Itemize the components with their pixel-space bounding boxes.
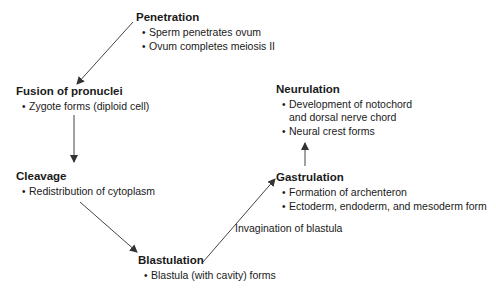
stage-bullet: Development of notochordand dorsal nerve… [282,98,412,124]
arrow-blastulation-to-gastrulation [203,179,275,262]
stage-title: Blastulation [138,253,276,267]
edge-label-invagination: Invagination of blastula [235,222,342,234]
stage-cleavage: Cleavage Redistribution of cytoplasm [16,169,155,199]
arrow-penetration-to-fusion [77,22,133,84]
bullet-line-1: Development of notochord [289,98,412,110]
stage-gastrulation: Gastrulation Formation of archenteron Ec… [276,170,487,214]
stage-bullet: Ovum completes meiosis II [142,40,275,53]
stage-penetration: Penetration Sperm penetrates ovum Ovum c… [136,10,275,54]
stage-bullet: Formation of archenteron [282,186,487,199]
stage-fusion-of-pronuclei: Fusion of pronuclei Zygote forms (diploi… [16,84,149,114]
stage-bullet: Ectoderm, endoderm, and mesoderm form [282,200,487,213]
stage-bullet: Blastula (with cavity) forms [144,269,276,282]
arrow-cleavage-to-blastulation [80,202,137,252]
stage-bullet: Redistribution of cytoplasm [22,185,155,198]
stage-bullet: Zygote forms (diploid cell) [22,100,149,113]
stage-title: Fusion of pronuclei [16,84,149,98]
stage-bullet: Neural crest forms [282,125,412,138]
stage-title: Neurulation [276,82,412,96]
stage-blastulation: Blastulation Blastula (with cavity) form… [138,253,276,283]
stage-neurulation: Neurulation Development of notochordand … [276,82,412,139]
stage-title: Penetration [136,10,275,24]
stage-bullet: Sperm penetrates ovum [142,26,275,39]
stage-title: Gastrulation [276,170,487,184]
stage-title: Cleavage [16,169,155,183]
bullet-line-2: and dorsal nerve chord [289,111,396,123]
